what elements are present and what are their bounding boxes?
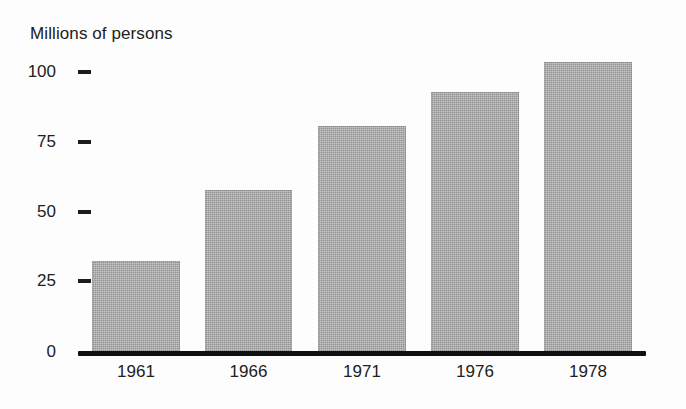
plot-area: 100 75 50 25 0 1961 1966 1971 1976 — [0, 0, 686, 409]
y-tick-label-0: 0 — [4, 341, 56, 363]
bar-1976 — [431, 92, 519, 352]
x-axis-label-1971: 1971 — [318, 362, 406, 382]
y-tick-mark-25 — [78, 279, 91, 283]
bar-chart-figure: Millions of persons 100 75 50 25 0 — [0, 0, 686, 409]
y-tick-mark-75 — [78, 140, 91, 144]
x-axis-label-1961: 1961 — [92, 362, 180, 382]
y-tick-label-50: 50 — [4, 201, 56, 223]
y-tick-mark-100 — [78, 70, 91, 74]
y-tick-mark-50 — [78, 210, 91, 214]
x-axis-label-1976: 1976 — [431, 362, 519, 382]
x-axis-label-1966: 1966 — [205, 362, 292, 382]
bar-1971 — [318, 126, 406, 352]
y-tick-label-100: 100 — [4, 61, 56, 83]
x-axis-label-1978: 1978 — [544, 362, 632, 382]
bar-1978 — [544, 62, 632, 352]
bar-1961 — [92, 261, 180, 352]
y-tick-label-75: 75 — [4, 131, 56, 153]
x-axis-line — [78, 351, 646, 356]
y-tick-label-25: 25 — [4, 270, 56, 292]
bar-1966 — [205, 190, 292, 352]
